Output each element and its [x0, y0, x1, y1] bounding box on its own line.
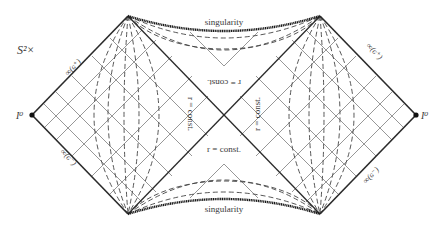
sphere-label: S²×	[17, 43, 35, 57]
scri-plus-left-label: ∞(ɢ⁺)	[63, 57, 83, 77]
spatial-infinity-left-label: I⁰	[15, 110, 23, 121]
null-grid	[44, 30, 404, 202]
r-const-left-label: r = const.	[186, 97, 196, 131]
spatial-infinity-right-label: I⁰	[420, 110, 428, 121]
diagram-boundaries	[32, 16, 416, 214]
r-const-bottom-label: r = const.	[207, 144, 241, 154]
singularity-bottom-label: singularity	[205, 204, 244, 214]
scri-minus-left-label: ∞(ɢ⁻)	[59, 147, 79, 167]
spatial-infinity-right-point	[413, 112, 418, 117]
penrose-diagram: S²× singularity singularity I⁰ I⁰ ∞(ɢ⁺) …	[0, 0, 444, 226]
singularity-top-label: singularity	[205, 17, 244, 27]
spatial-infinity-left-point	[29, 112, 34, 117]
r-const-top-label: r = const.	[207, 78, 241, 88]
r-const-right-label: r = const.	[252, 97, 262, 131]
scri-plus-right-label: ∞(ɢ⁺)	[365, 41, 385, 61]
